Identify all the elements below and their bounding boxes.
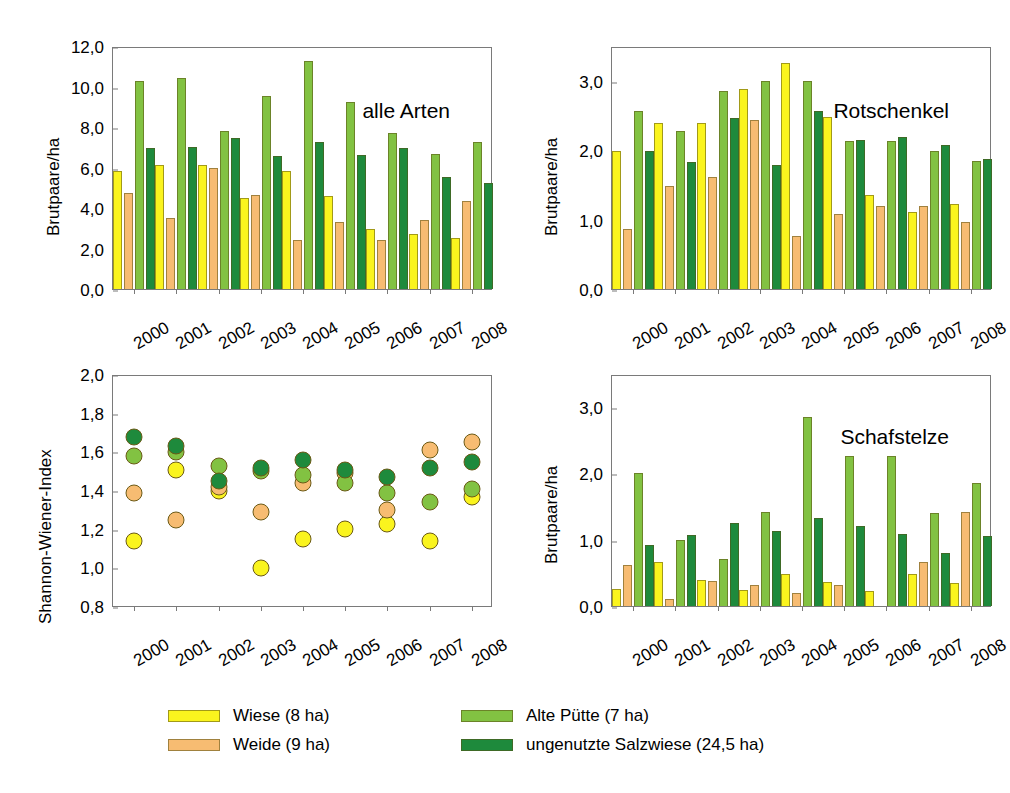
bar-group-2000 bbox=[612, 376, 654, 606]
scatter-point bbox=[126, 484, 143, 501]
bar bbox=[645, 545, 654, 606]
y-tick-label: 1,0 bbox=[80, 559, 113, 579]
y-tick-label: 2,0 bbox=[579, 465, 612, 485]
scatter-point bbox=[295, 531, 312, 548]
y-tick-label: 0,0 bbox=[80, 281, 113, 301]
x-tick-mark bbox=[345, 606, 346, 611]
y-tick-label: 2,0 bbox=[80, 366, 113, 386]
bar bbox=[972, 483, 981, 606]
legend-label: Alte Pütte (7 ha) bbox=[526, 706, 649, 726]
bar-group-2001 bbox=[654, 48, 696, 289]
bar bbox=[209, 168, 218, 290]
x-tick-label-2001: 2001 bbox=[173, 635, 216, 671]
legend-item-alte-p-tte[interactable]: Alte Pütte (7 ha) bbox=[461, 706, 649, 726]
bar bbox=[399, 148, 408, 289]
bar-group-2007 bbox=[908, 48, 950, 289]
bar bbox=[876, 206, 885, 289]
x-tick-mark bbox=[387, 289, 388, 294]
bar bbox=[665, 599, 674, 606]
bar bbox=[634, 473, 643, 606]
bar-group-2003 bbox=[739, 376, 781, 606]
bar bbox=[377, 240, 386, 289]
bar-group-2008 bbox=[950, 376, 992, 606]
bar bbox=[451, 238, 460, 289]
bar-group-2000 bbox=[612, 48, 654, 289]
x-tick-mark bbox=[929, 606, 930, 611]
bar bbox=[908, 574, 917, 606]
bar bbox=[634, 111, 643, 289]
scatter-point bbox=[337, 521, 354, 538]
bar bbox=[124, 193, 133, 289]
x-tick-mark bbox=[303, 606, 304, 611]
x-tick-label-2001: 2001 bbox=[672, 635, 715, 671]
bar-group-2006 bbox=[366, 48, 408, 289]
legend-item-ungenutzte-salzwiese[interactable]: ungenutzte Salzwiese (24,5 ha) bbox=[461, 735, 764, 755]
bar bbox=[730, 118, 739, 289]
bar bbox=[865, 591, 874, 606]
y-tick-label: 1,0 bbox=[579, 212, 612, 232]
y-tick-label: 10,0 bbox=[71, 79, 113, 99]
y-tick-label: 0,0 bbox=[579, 281, 612, 301]
y-tick-mark bbox=[113, 376, 118, 377]
x-tick-mark bbox=[219, 289, 220, 294]
x-tick-label-2005: 2005 bbox=[841, 635, 884, 671]
bar bbox=[484, 183, 493, 289]
scatter-point bbox=[379, 484, 396, 501]
x-tick-label-2008: 2008 bbox=[967, 635, 1010, 671]
x-tick-label-2006: 2006 bbox=[883, 635, 926, 671]
scatter-point bbox=[168, 461, 185, 478]
panel-title-rotschenkel: Rotschenkel bbox=[833, 99, 949, 123]
bar bbox=[612, 151, 621, 289]
y-tick-label: 6,0 bbox=[80, 160, 113, 180]
x-tick-mark bbox=[802, 606, 803, 611]
plot-area-shannon-wiener-index: 0,81,01,21,41,61,82,02000200120022003200… bbox=[112, 375, 492, 607]
bar bbox=[930, 151, 939, 289]
y-tick-label: 1,0 bbox=[579, 532, 612, 552]
bar-group-2001 bbox=[654, 376, 696, 606]
bar bbox=[803, 417, 812, 606]
x-tick-mark bbox=[675, 606, 676, 611]
bar bbox=[293, 240, 302, 289]
bar-group-2005 bbox=[324, 48, 366, 289]
y-tick-mark bbox=[612, 291, 617, 292]
x-tick-label-2004: 2004 bbox=[798, 635, 841, 671]
bar bbox=[781, 574, 790, 606]
bar bbox=[761, 512, 770, 606]
legend-swatch-icon bbox=[461, 739, 513, 751]
bar bbox=[645, 151, 654, 289]
legend-label: Wiese (8 ha) bbox=[233, 706, 329, 726]
bar bbox=[730, 523, 739, 606]
bar-group-2002 bbox=[697, 48, 739, 289]
x-tick-mark bbox=[176, 606, 177, 611]
y-tick-label: 0,0 bbox=[579, 598, 612, 618]
bar bbox=[941, 145, 950, 289]
panel-title-schafstelze: Schafstelze bbox=[840, 425, 949, 449]
bar bbox=[198, 165, 207, 289]
bar bbox=[792, 593, 801, 606]
bar bbox=[282, 171, 291, 289]
bar bbox=[739, 590, 748, 606]
y-tick-label: 12,0 bbox=[71, 38, 113, 58]
bar bbox=[462, 201, 471, 289]
scatter-point bbox=[421, 459, 438, 476]
x-tick-mark bbox=[844, 606, 845, 611]
bar bbox=[335, 222, 344, 289]
bar bbox=[188, 147, 197, 289]
scatter-point bbox=[126, 533, 143, 550]
y-tick-mark bbox=[113, 569, 118, 570]
bar bbox=[950, 204, 959, 289]
x-tick-label-2005: 2005 bbox=[342, 635, 385, 671]
panel-title-alle-arten: alle Arten bbox=[362, 99, 450, 123]
bar-group-2004 bbox=[781, 376, 823, 606]
bar bbox=[792, 236, 801, 289]
bar-group-2008 bbox=[451, 48, 493, 289]
legend-swatch-icon bbox=[461, 710, 513, 722]
bar bbox=[654, 562, 663, 606]
legend-item-weide[interactable]: Weide (9 ha) bbox=[168, 735, 330, 755]
scatter-point bbox=[463, 453, 480, 470]
bar bbox=[324, 196, 333, 289]
x-tick-mark bbox=[219, 606, 220, 611]
bar bbox=[814, 111, 823, 289]
y-tick-label: 2,0 bbox=[579, 142, 612, 162]
legend-item-wiese[interactable]: Wiese (8 ha) bbox=[168, 706, 329, 726]
